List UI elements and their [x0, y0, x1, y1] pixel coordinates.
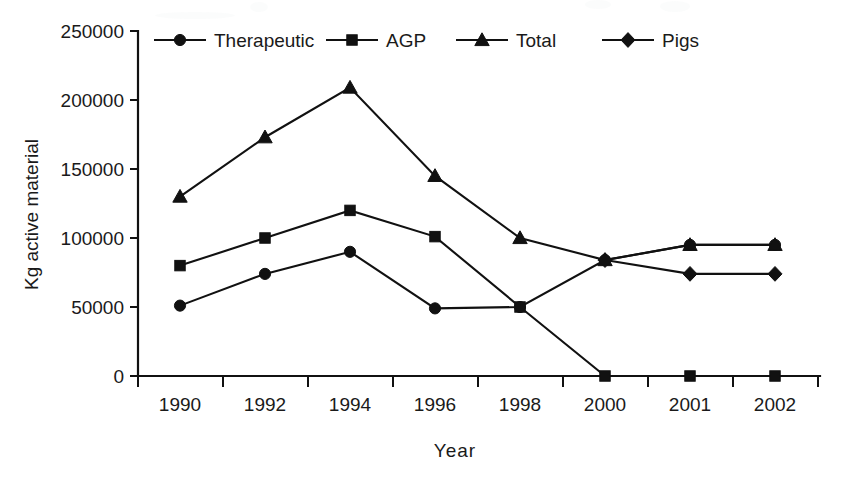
y-axis-ticks [130, 31, 138, 376]
x-axis-ticks [138, 376, 818, 387]
legend-item-therapeutic[interactable]: Therapeutic [154, 30, 314, 51]
x-tick-label: 2001 [669, 394, 711, 415]
legend-label: Pigs [662, 30, 699, 51]
x-tick-label: 1992 [244, 394, 286, 415]
legend-label: AGP [386, 30, 426, 51]
legend-label: Therapeutic [214, 30, 314, 51]
series-layer [173, 80, 782, 381]
x-tick-label: 1996 [414, 394, 456, 415]
data-point-circle [259, 268, 270, 279]
y-tick-label: 50000 [71, 297, 124, 318]
series-agp [175, 205, 780, 381]
data-point-diamond [768, 267, 782, 282]
y-tick-label: 100000 [61, 228, 124, 249]
data-point-square [260, 233, 270, 243]
legend-marker-square-icon [347, 35, 357, 45]
data-point-triangle [513, 231, 527, 244]
x-axis-tick-labels: 1990 1992 1994 1996 1998 2000 2001 2002 [159, 394, 796, 415]
legend-item-agp[interactable]: AGP [326, 30, 426, 51]
data-point-square [430, 231, 440, 241]
legend-item-pigs[interactable]: Pigs [602, 30, 699, 51]
data-point-circle [344, 246, 355, 257]
data-point-triangle [258, 130, 272, 143]
y-axis-tick-labels: 250000 200000 150000 100000 50000 0 [61, 21, 124, 387]
data-point-triangle [173, 189, 187, 202]
legend-item-total[interactable]: Total [456, 30, 556, 51]
x-tick-label: 2002 [754, 394, 796, 415]
data-point-triangle [343, 80, 357, 93]
x-tick-label: 1990 [159, 394, 201, 415]
data-point-square [175, 260, 185, 270]
line-chart: 250000 200000 150000 100000 50000 0 Kg a… [0, 0, 841, 481]
legend-marker-diamond-icon [621, 33, 635, 48]
data-point-circle [429, 303, 440, 314]
chart-figure: 250000 200000 150000 100000 50000 0 Kg a… [0, 0, 841, 481]
chart-legend: TherapeuticAGPTotalPigs [154, 30, 699, 51]
y-tick-label: 0 [113, 366, 124, 387]
data-point-square [770, 371, 780, 381]
data-point-circle [174, 300, 185, 311]
y-tick-label: 250000 [61, 21, 124, 42]
legend-label: Total [516, 30, 556, 51]
data-point-square [600, 371, 610, 381]
data-point-square [345, 205, 355, 215]
legend-marker-circle-icon [174, 34, 185, 45]
x-tick-label: 1994 [329, 394, 372, 415]
x-axis-title: Year [434, 440, 476, 461]
data-point-square [685, 371, 695, 381]
x-tick-label: 1998 [499, 394, 541, 415]
y-axis-title: Kg active material [21, 139, 42, 290]
y-tick-label: 150000 [61, 159, 124, 180]
data-point-diamond [683, 267, 697, 282]
y-tick-label: 200000 [61, 90, 124, 111]
x-tick-label: 2000 [584, 394, 626, 415]
data-point-square [515, 302, 525, 312]
